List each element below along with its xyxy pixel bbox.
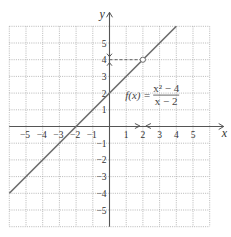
y-tick-label: −2: [96, 155, 106, 165]
x-tick-label: −5: [20, 130, 30, 140]
function-label: f(x) = x² − 4 x − 2: [125, 82, 179, 107]
function-numerator: x² − 4: [153, 82, 180, 94]
open-circle-hole: [140, 57, 145, 62]
arrow-down-icon: [107, 48, 112, 57]
y-tick-label: 5: [102, 39, 107, 49]
x-tick-label: −3: [53, 130, 63, 140]
chart: −5−4−3−2−112345−5−4−3−2−112354 x y f(x) …: [0, 0, 231, 237]
y-tick-label: 1: [102, 105, 107, 115]
axes: [9, 12, 223, 226]
y-tick-label: 4: [102, 55, 107, 65]
x-tick-label: −4: [37, 130, 47, 140]
x-axis-label: x: [221, 126, 228, 140]
function-denominator: x − 2: [155, 95, 178, 107]
y-axis-label: y: [99, 7, 106, 21]
arrow-up-icon: [107, 63, 112, 72]
y-tick-label: −5: [96, 206, 106, 216]
x-tick-label: 2: [141, 130, 146, 140]
y-tick-label: −4: [96, 189, 106, 199]
x-tick-label: 5: [191, 130, 196, 140]
y-tick-label: −3: [96, 172, 106, 182]
y-tick-label: 3: [102, 72, 107, 82]
y-tick-label: −1: [96, 139, 106, 149]
function-label-prefix: f(x) =: [125, 89, 150, 102]
x-tick-label: 1: [124, 130, 129, 140]
x-tick-label: 3: [157, 130, 162, 140]
x-tick-label: 4: [174, 130, 179, 140]
